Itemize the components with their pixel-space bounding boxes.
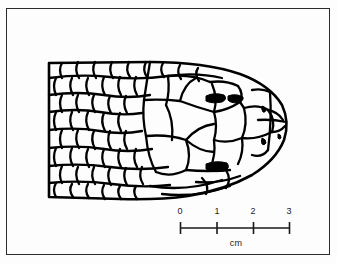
scale-tick-label-1: 1 (209, 206, 225, 216)
figure-root: 0 1 2 3 cm (0, 0, 337, 263)
rostral-notch-mark (278, 134, 281, 139)
scale-unit-label: cm (216, 238, 256, 248)
snake-head-drawing (0, 0, 337, 263)
parietal-mid-suture (144, 100, 180, 101)
scale-tick-label-3: 3 (281, 206, 297, 216)
scale-bar-group (180, 222, 290, 234)
scale-tick-label-0: 0 (172, 206, 188, 216)
eye-upper-right (228, 95, 243, 103)
eye-lower (206, 162, 228, 172)
eye-upper-left (206, 94, 226, 103)
scale-tick-label-2: 2 (245, 206, 261, 216)
